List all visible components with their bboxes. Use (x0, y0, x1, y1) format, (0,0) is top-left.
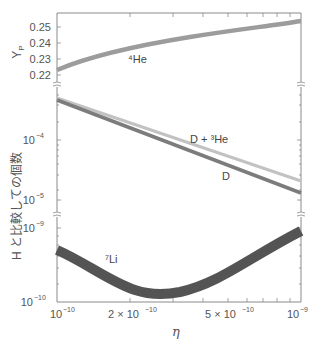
yp-tick-1: 0.24 (30, 37, 51, 49)
x-tick-3-exp: −9 (300, 306, 308, 313)
li-tick-1-exp: −10 (34, 294, 46, 301)
he4-label: ⁴He (128, 53, 147, 65)
x-tick-3: 10 (287, 308, 299, 320)
axis-break-marks (53, 82, 305, 217)
yp-tick-2: 0.23 (30, 53, 51, 65)
yp-tick-3: 0.22 (30, 69, 51, 81)
yp-tick-labels: 0.25 0.24 0.23 0.22 (30, 21, 51, 81)
x-ticks-top (130, 13, 290, 17)
d-he3-label: D + ³He (190, 133, 228, 145)
x-tick-1-exp: −10 (145, 306, 157, 313)
li7-label: ⁷Li (105, 253, 118, 265)
li-tick-0: 10 (23, 222, 35, 234)
d-curve (57, 100, 301, 193)
d-tick-1-exp: −5 (36, 192, 44, 199)
d-tick-labels: 10 −4 10 −5 (23, 132, 44, 206)
x-tick-labels: 10 −10 2 × 10 −10 5 × 10 −10 10 −9 (50, 306, 308, 320)
d-label: D (222, 170, 230, 182)
yp-tick-0: 0.25 (30, 21, 51, 33)
li-tick-1: 10 (21, 296, 33, 308)
d-tick-0-exp: −4 (36, 132, 44, 139)
x-tick-0: 10 (50, 308, 62, 320)
x-axis-title: η (172, 324, 180, 339)
li-tick-0-exp: −9 (36, 220, 44, 227)
d-tick-1: 10 (23, 194, 35, 206)
abundance-title: H と比較しての個数 (9, 152, 24, 260)
x-tick-2: 5 × 10 (205, 308, 236, 320)
li7-curve (57, 231, 301, 294)
he4-curve (57, 21, 301, 70)
x-tick-0-exp: −10 (63, 306, 75, 313)
d-he3-curve (57, 98, 301, 181)
d-tick-0: 10 (23, 134, 35, 146)
x-tick-1: 2 × 10 (108, 308, 139, 320)
bbn-abundance-chart: 0.25 0.24 0.23 0.22 10 −4 10 −5 10 −9 10… (0, 0, 323, 349)
y-ticks-right (297, 95, 301, 284)
y-axis-title-top: YP (10, 45, 26, 58)
li-tick-labels: 10 −9 10 −10 (21, 220, 46, 308)
x-tick-2-exp: −10 (242, 306, 254, 313)
yp-title: YP (10, 45, 26, 58)
y-axis-title-bottom: H と比較しての個数 (9, 152, 24, 260)
